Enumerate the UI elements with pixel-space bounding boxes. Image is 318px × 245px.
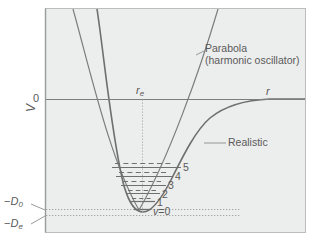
morse-potential-figure: V 0 re r −D0 −De Parabola (harmonic osci…	[0, 0, 318, 245]
parabola-annotation-line1: Parabola	[205, 42, 300, 54]
zero-tick-label: 0	[33, 92, 39, 105]
equilibrium-subscript: e	[140, 89, 144, 98]
level-label-4: 4	[175, 170, 181, 182]
d0-leader-line	[31, 204, 45, 210]
d0-label: −D0	[4, 195, 23, 209]
equilibrium-distance-label: re	[136, 84, 144, 98]
x-axis-label: r	[266, 85, 270, 98]
level-label-0: v=0	[153, 205, 170, 217]
de-subscript: e	[18, 222, 22, 231]
de-label: −De	[4, 217, 23, 231]
level-label-3: 3	[168, 179, 174, 191]
y-axis-label: V	[25, 104, 39, 112]
d0-subscript: 0	[18, 200, 22, 209]
de-leader-line	[31, 216, 45, 224]
parabola-annotation-line2: (harmonic oscillator)	[205, 54, 300, 66]
level-label-5: 5	[183, 161, 189, 173]
level-label-0-eq: =0	[158, 205, 170, 217]
realistic-annotation: Realistic	[228, 136, 268, 148]
parabola-annotation: Parabola (harmonic oscillator)	[205, 42, 300, 66]
